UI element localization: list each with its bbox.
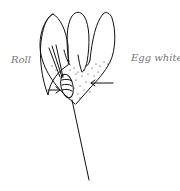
roll-spiral-3: [62, 89, 72, 91]
egg-white-arrow: [91, 80, 113, 86]
middle-petal: [67, 12, 89, 72]
label-egg-white: Egg white: [131, 52, 180, 63]
stem: [72, 100, 89, 180]
label-roll: Roll: [11, 54, 31, 65]
roll-shape: [59, 73, 76, 99]
roll-spiral-1: [62, 79, 72, 81]
right-petal: [76, 13, 115, 104]
flower-diagram: [0, 0, 180, 191]
petal-divider-left: [64, 50, 70, 65]
roll-spiral-2: [62, 84, 72, 86]
